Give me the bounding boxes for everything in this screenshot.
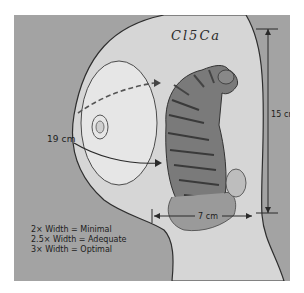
legend-item-minimal: 2× Width = Minimal	[31, 225, 126, 235]
width-measure-label: 7 cm	[198, 212, 218, 221]
ratio-legend: 2× Width = Minimal 2.5× Width = Adequate…	[31, 225, 126, 255]
height-measure-label: 15 cm	[271, 110, 290, 119]
legend-item-adequate: 2.5× Width = Adequate	[31, 235, 126, 245]
arc-measure-label: 19 cm	[47, 134, 76, 144]
illustration-panel: Cl5Ca 19 cm 15 cm 7 cm 2× Width = Minima…	[14, 15, 290, 281]
tattoo-script-text: Cl5Ca	[171, 28, 221, 43]
legend-item-optimal: 3× Width = Optimal	[31, 245, 126, 255]
